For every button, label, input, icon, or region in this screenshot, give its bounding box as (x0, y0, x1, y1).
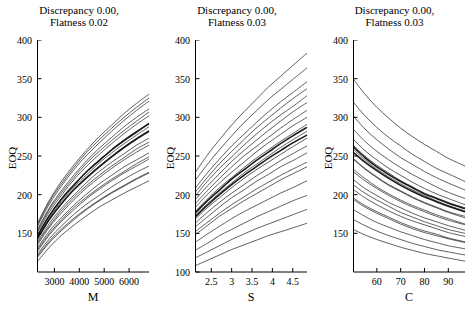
series-line-curve-06 (353, 179, 465, 230)
line-chart-S (195, 40, 308, 273)
x-tick-label: 3.5 (246, 276, 259, 287)
y-tick-label: 350 (316, 73, 348, 84)
series-line-curve-01 (195, 223, 307, 266)
series-line-curve-bold-1 (353, 147, 465, 209)
y-tick-label: 350 (158, 73, 190, 84)
series-line-curve-12 (353, 116, 465, 190)
line-chart-C (353, 40, 466, 273)
y-tick-label: 400 (0, 35, 32, 46)
x-tick-label: 5000 (94, 276, 114, 287)
x-tick-label: 4.5 (286, 276, 299, 287)
panel-title-C: Discrepancy 0.00, Flatness 0.03 (316, 4, 473, 28)
y-tick-label: 250 (0, 151, 32, 162)
y-tick-label: 200 (0, 189, 32, 200)
series-line-curve-08 (37, 130, 149, 239)
y-tick-label: 150 (158, 228, 190, 239)
y-tick-label: 400 (158, 35, 190, 46)
x-tick-label: 2.5 (205, 276, 218, 287)
y-tick-label: 250 (316, 151, 348, 162)
x-tick-label: 70 (396, 276, 406, 287)
series-line-curve-02 (37, 173, 149, 258)
panel-title-M: Discrepancy 0.00, Flatness 0.02 (0, 4, 158, 28)
series-line-curve-19 (37, 98, 149, 226)
series-line-curve-02 (195, 209, 307, 258)
panel-C: Discrepancy 0.00, Flatness 0.03 EOQ 1502… (316, 0, 473, 317)
y-tick-label: 400 (316, 35, 348, 46)
series-line-curve-13 (353, 102, 465, 182)
panel-title-line1: Discrepancy 0.00, (158, 4, 316, 16)
y-tick-label: 350 (0, 73, 32, 84)
series-line-curve-18 (353, 158, 465, 216)
panel-title-line2: Flatness 0.02 (0, 16, 158, 28)
panel-title-line2: Flatness 0.03 (158, 16, 316, 28)
panel-M: Discrepancy 0.00, Flatness 0.02 EOQ 1502… (0, 0, 158, 317)
y-tick-label: 300 (158, 112, 190, 123)
x-tick-label: 4 (270, 276, 275, 287)
y-tick-label: 150 (316, 228, 348, 239)
x-tick-label: 4000 (69, 276, 89, 287)
x-tick-label: 90 (443, 276, 453, 287)
series-line-curve-14 (353, 79, 465, 166)
y-tick-label: 150 (0, 228, 32, 239)
plot-area-C (353, 40, 465, 272)
x-tick-label: 3000 (44, 276, 64, 287)
x-tick-label: 3 (229, 276, 234, 287)
x-axis-label-M: M (37, 290, 149, 305)
panel-title-line1: Discrepancy 0.00, (316, 4, 473, 16)
y-tick-label: 300 (316, 112, 348, 123)
x-tick-label: 6000 (119, 276, 139, 287)
panel-S: Discrepancy 0.00, Flatness 0.03 EOQ 1001… (158, 0, 316, 317)
x-tick-label: 60 (372, 276, 382, 287)
y-tick-label: 200 (316, 189, 348, 200)
series-line-curve-18 (195, 103, 307, 200)
x-axis-label-S: S (195, 290, 307, 305)
y-tick-label: 300 (0, 112, 32, 123)
panel-title-S: Discrepancy 0.00, Flatness 0.03 (158, 4, 316, 28)
line-chart-M (37, 40, 150, 273)
plot-area-M (37, 40, 149, 272)
figure-container: Discrepancy 0.00, Flatness 0.02 EOQ 1502… (0, 0, 473, 317)
panel-title-line1: Discrepancy 0.00, (0, 4, 158, 16)
y-tick-label: 100 (158, 267, 190, 278)
panel-title-line2: Flatness 0.03 (316, 16, 473, 28)
x-tick-label: 80 (419, 276, 429, 287)
series-line-curve-17 (195, 117, 307, 207)
y-tick-label: 200 (158, 189, 190, 200)
plot-area-S (195, 40, 307, 272)
x-axis-label-C: C (353, 290, 465, 305)
series-line-curve-bold-2 (37, 131, 149, 239)
y-tick-label: 250 (158, 151, 190, 162)
